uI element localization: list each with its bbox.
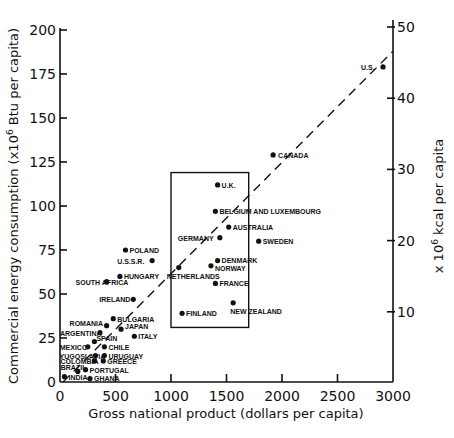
point-label: SOUTH AFRICA — [76, 279, 129, 286]
y-tick-label: 0 — [47, 374, 56, 390]
data-point: DENMARK — [215, 257, 257, 264]
y-tick-label: 75 — [38, 242, 56, 258]
point-marker — [123, 247, 128, 252]
y2-axis-label: x 106 kcal per capita — [430, 139, 446, 273]
x-tick-label: 1500 — [209, 388, 245, 404]
y-tick-label: 200 — [29, 22, 56, 38]
point-label: BELGIUM AND LUXEMBOURG — [219, 208, 321, 215]
point-marker — [132, 334, 137, 339]
data-point: IRELAND — [99, 296, 136, 303]
data-point: JAPAN — [118, 323, 148, 332]
point-marker — [102, 344, 107, 349]
x-tick-label: 500 — [102, 388, 129, 404]
y-tick-label: 100 — [29, 198, 56, 214]
y2-tick-label: 50 — [397, 19, 415, 35]
point-marker — [150, 258, 155, 263]
x-tick-label: 1000 — [153, 388, 189, 404]
point-marker — [217, 235, 222, 240]
data-point: MEXICO — [60, 344, 91, 351]
point-label: CHILE — [108, 344, 129, 351]
data-point: ITALY — [132, 333, 158, 340]
point-marker — [131, 297, 136, 302]
point-marker — [380, 64, 385, 69]
data-point: ROMANIA — [70, 320, 110, 329]
point-marker — [180, 311, 185, 316]
point-label: BULGARIA — [117, 316, 154, 323]
data-point: BULGARIA — [111, 316, 155, 323]
x-axis-label: Gross national product (dollars per capi… — [88, 406, 363, 421]
data-point: SWEDEN — [256, 238, 293, 245]
y-tick-label: 175 — [29, 66, 56, 82]
point-label: HUNGARY — [124, 273, 159, 280]
point-marker — [271, 152, 276, 157]
data-point: SPAIN — [92, 335, 117, 345]
point-label: CANADA — [278, 152, 308, 159]
x-tick-label: 0 — [56, 388, 65, 404]
data-point: GERMANY — [178, 235, 223, 242]
point-label: NETHERLANDS — [167, 273, 220, 280]
data-point: POLAND — [123, 247, 159, 254]
point-label: IRELAND — [99, 296, 130, 303]
point-label: INDIA — [68, 374, 87, 381]
point-label: MEXICO — [60, 344, 88, 351]
scatter-chart: 0500100015002000250030000255075100125150… — [0, 0, 454, 438]
data-point: BELGIUM AND LUXEMBOURG — [213, 208, 322, 215]
y-tick-label: 125 — [29, 154, 56, 170]
point-label: GREECE — [107, 358, 137, 365]
point-label: U.S.S.R. — [117, 258, 144, 265]
data-point: U.S. — [361, 64, 386, 71]
point-marker — [104, 323, 109, 328]
point-marker — [226, 225, 231, 230]
y-tick-label: 25 — [38, 330, 56, 346]
point-label: NEW ZEALAND — [230, 308, 282, 315]
x-tick-label: 3000 — [375, 388, 411, 404]
data-point: AUSTRALIA — [226, 224, 273, 231]
point-label: U.S. — [361, 64, 375, 71]
point-label: SPAIN — [96, 335, 117, 342]
data-point: FINLAND — [180, 310, 217, 317]
data-point: GREECE — [101, 358, 137, 365]
point-label: FINLAND — [186, 310, 217, 317]
point-label: POLAND — [129, 247, 159, 254]
y2-tick-label: 40 — [397, 90, 415, 106]
point-label: GHANA — [94, 375, 120, 382]
point-label: NORWAY — [215, 265, 246, 272]
y2-tick-label: 10 — [397, 304, 415, 320]
y2-tick-label: 20 — [397, 233, 415, 249]
x-tick-label: 2500 — [320, 388, 356, 404]
point-marker — [215, 258, 220, 263]
point-label: SWEDEN — [263, 238, 294, 245]
data-point: U.S.S.R. — [117, 258, 155, 265]
point-label: AUSTRALIA — [233, 224, 273, 231]
y-tick-label: 150 — [29, 110, 56, 126]
point-label: U.K. — [222, 182, 236, 189]
point-label: ARGENTINA — [60, 330, 102, 337]
point-marker — [213, 281, 218, 286]
highlight-box — [171, 173, 249, 328]
data-point: PORTUGAL — [83, 367, 130, 374]
point-label: FRANCE — [219, 280, 248, 287]
point-label: BRAZIL — [61, 364, 87, 371]
data-point: CANADA — [271, 152, 309, 159]
point-label: DENMARK — [222, 257, 258, 264]
data-point: NORWAY — [208, 263, 246, 272]
point-label: ITALY — [138, 333, 157, 340]
data-point: SOUTH AFRICA — [76, 279, 129, 286]
y2-tick-label: 30 — [397, 161, 415, 177]
point-label: PORTUGAL — [90, 367, 130, 374]
data-point: BRAZIL — [61, 364, 87, 374]
point-marker — [215, 182, 220, 187]
trend-line-path — [63, 51, 393, 382]
point-marker — [176, 265, 181, 270]
y-axis-label: Commercial energy consumption (x106 Btu … — [5, 28, 21, 384]
point-marker — [231, 300, 236, 305]
trend-line — [63, 51, 393, 382]
data-points: U.S.CANADAU.K.BELGIUM AND LUXEMBOURGAUST… — [60, 64, 386, 383]
point-marker — [62, 374, 67, 379]
data-point: U.K. — [215, 182, 236, 189]
point-marker — [111, 316, 116, 321]
point-marker — [101, 358, 106, 363]
highlight-rect — [171, 173, 249, 328]
point-marker — [213, 209, 218, 214]
x-tick-label: 2000 — [264, 388, 300, 404]
